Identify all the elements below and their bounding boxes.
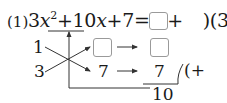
sum-bracket [178, 64, 183, 84]
left-bottom-number: 3 [34, 61, 45, 81]
sum-sign: (+ [184, 60, 205, 80]
left-top-number: 1 [33, 37, 44, 57]
result-blank-box[interactable] [150, 38, 169, 57]
cross-product-number: 7 [98, 61, 109, 81]
cross-product-blank-box[interactable] [93, 38, 112, 57]
sum-total: 10 [152, 84, 174, 103]
result-number: 7 [154, 61, 165, 81]
